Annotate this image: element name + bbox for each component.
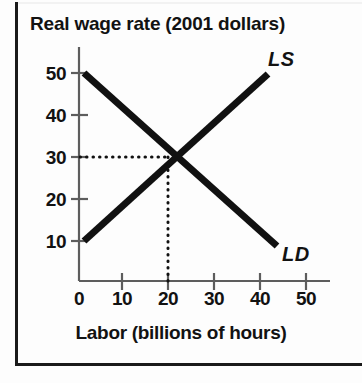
x-tick-label-0: 0 [59,288,99,310]
y-tick-label-wrap-30: 30 [22,147,66,169]
x-tick-label-30: 30 [194,288,234,310]
y-tick-label-wrap-40: 40 [22,105,66,127]
y-tick-label-30: 30 [22,147,66,169]
y-tick-label-wrap-50: 50 [22,63,66,85]
x-tick-label-wrap-30: 30 [194,288,234,312]
y-tick-label-wrap-20: 20 [22,189,66,211]
x-tick-label-50: 50 [286,288,326,310]
x-tick-label-wrap-20: 20 [148,288,188,312]
y-tick-label-10: 10 [22,231,66,253]
y-tick-label-40: 40 [22,105,66,127]
x-tick-label-wrap-0: 0 [59,288,99,312]
x-tick-label-wrap-40: 40 [240,288,280,312]
y-tick-label-50: 50 [22,63,66,85]
x-tick-label-wrap-50: 50 [286,288,326,312]
demand-curve-ld [84,73,277,246]
x-tick-label-40: 40 [240,288,280,310]
x-tick-label-10: 10 [102,288,142,310]
curve-label-ld: LD [282,243,310,266]
curve-label-ls: LS [268,48,295,71]
x-tick-label-20: 20 [148,288,188,310]
figure-root: Real wage rate (2001 dollars) [0,0,362,383]
x-tick-label-wrap-10: 10 [102,288,142,312]
x-axis-caption: Labor (billions of hours) [0,322,362,344]
y-tick-label-wrap-10: 10 [22,231,66,253]
y-tick-label-20: 20 [22,189,66,211]
